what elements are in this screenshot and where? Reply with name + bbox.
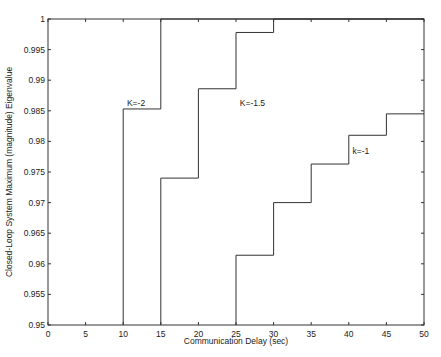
x-tick-label: 5 xyxy=(83,329,88,339)
series-line-1 xyxy=(123,19,424,325)
plot-lines xyxy=(123,19,424,325)
curve-label: K=-1.5 xyxy=(240,98,266,108)
y-axis-label: Closed-Loop System Maximum (magnitude) E… xyxy=(4,67,14,278)
y-tick-label: 0.96 xyxy=(28,259,45,269)
x-tick-label: 50 xyxy=(419,329,429,339)
x-tick-label: 45 xyxy=(382,329,392,339)
y-tick-label: 0.955 xyxy=(24,289,46,299)
curve-label: K=-2 xyxy=(127,98,145,108)
y-tick-label: 1 xyxy=(40,14,45,24)
y-tick-label: 0.995 xyxy=(24,45,46,55)
series-line-2 xyxy=(161,19,424,325)
y-tick-label: 0.985 xyxy=(24,106,46,116)
y-tick-label: 0.965 xyxy=(24,228,46,238)
x-tick-label: 35 xyxy=(306,329,316,339)
series-line-3 xyxy=(236,114,424,325)
x-tick-label: 10 xyxy=(118,329,128,339)
x-axis-ticks: 05101520253035404550 xyxy=(46,19,429,339)
y-tick-label: 0.98 xyxy=(28,136,45,146)
x-tick-label: 15 xyxy=(156,329,166,339)
x-tick-label: 0 xyxy=(46,329,51,339)
curve-labels: K=-2K=-1.5k=-1 xyxy=(127,98,370,156)
y-tick-label: 0.95 xyxy=(28,320,45,330)
eigenvalue-step-chart: 05101520253035404550 0.950.9550.960.9650… xyxy=(0,0,441,357)
y-axis-ticks: 0.950.9550.960.9650.970.9750.980.9850.99… xyxy=(24,14,424,330)
curve-label: k=-1 xyxy=(353,146,370,156)
y-tick-label: 0.99 xyxy=(28,75,45,85)
y-tick-label: 0.97 xyxy=(28,198,45,208)
x-tick-label: 40 xyxy=(344,329,354,339)
x-axis-label: Communication Delay (sec) xyxy=(184,336,289,346)
y-tick-label: 0.975 xyxy=(24,167,46,177)
